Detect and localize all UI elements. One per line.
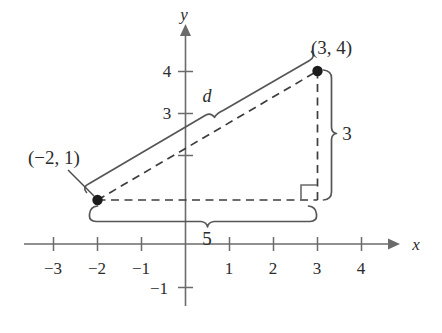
y-axis-label: y [180,6,188,23]
x-tick-label-3: 3 [313,260,322,277]
right-angle-icon [301,185,317,200]
x-tick-label--2: −2 [88,260,106,277]
point-b-label: (3, 4) [311,38,352,57]
y-tick-label-3: 3 [163,105,172,122]
y-tick-label--1: −1 [150,280,168,297]
y-tick-label-4: 4 [163,63,172,80]
point-a-label: (−2, 1) [28,148,80,167]
y-axis [180,24,191,306]
distance-brace [85,52,313,193]
vertical-leg-brace [324,70,337,200]
y-axis-arrow [180,24,191,36]
x-axis-label: x [412,236,420,253]
point-b-marker[interactable] [312,66,322,76]
vertical-leg-label: 3 [342,124,352,143]
x-axis [24,239,400,250]
x-tick-label-1: 1 [225,260,234,277]
x-tick-label--3: −3 [44,260,62,277]
point-a-marker[interactable] [92,195,102,205]
x-axis-arrow [388,239,400,250]
distance-label: d [203,87,212,105]
figure-canvas: y x −3 −2 −1 1 2 3 4 4 3 −1 (−2, 1) (3, … [0,0,442,333]
x-tick-label-4: 4 [357,260,366,277]
horizontal-leg-label: 5 [202,229,212,248]
horizontal-leg-brace [90,206,317,227]
x-tick-label--1: −1 [132,260,150,277]
x-tick-label-2: 2 [269,260,278,277]
